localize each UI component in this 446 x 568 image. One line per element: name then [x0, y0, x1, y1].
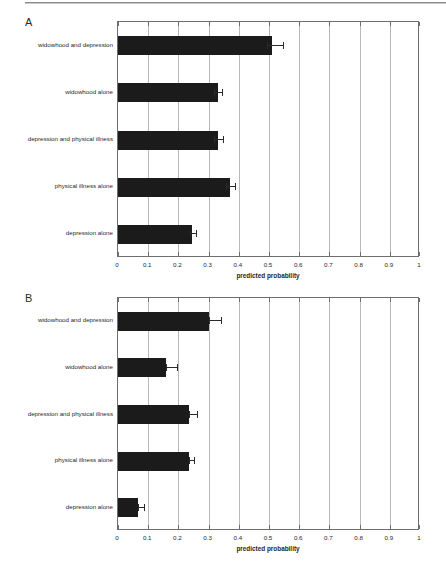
xtick-label: 0: [115, 261, 118, 268]
axis-tick: [269, 22, 270, 26]
error-bar: [214, 92, 222, 93]
category-label: widowhood and depression: [1, 317, 113, 323]
bar: [118, 405, 189, 424]
axis-tick: [360, 298, 361, 302]
axis-tick: [269, 525, 270, 529]
error-bar: [214, 139, 223, 140]
error-bar: [267, 45, 283, 46]
axis-tick: [148, 22, 149, 26]
axis-tick: [209, 525, 210, 529]
error-bar-cap: [283, 42, 284, 49]
axis-tick: [390, 22, 391, 26]
bar: [118, 498, 138, 517]
axis-tick: [419, 22, 420, 26]
bar: [118, 131, 218, 150]
xtick-label: 0.1: [143, 534, 152, 541]
xtick-label: 0.1: [143, 261, 152, 268]
xtick-label: 0.9: [384, 261, 393, 268]
panel-a: A widowhood and depressionwidowhood alon…: [0, 12, 446, 280]
axis-tick: [209, 252, 210, 256]
error-bar-cap: [144, 504, 145, 511]
xtick-label: 0.4: [233, 534, 242, 541]
axis-tick: [239, 525, 240, 529]
bar: [118, 225, 192, 244]
axis-tick: [178, 298, 179, 302]
xtick-label: 0: [115, 534, 118, 541]
error-bar-cap: [222, 89, 223, 96]
axis-tick: [118, 525, 119, 529]
axis-tick: [118, 298, 119, 302]
error-bar-cap: [226, 183, 227, 190]
bar: [118, 178, 230, 197]
panel-b: B widowhood and depressionwidowhood alon…: [0, 288, 446, 560]
xtick-label: 0.3: [203, 534, 212, 541]
axis-tick: [360, 252, 361, 256]
error-bar-cap: [197, 411, 198, 418]
axis-tick: [209, 298, 210, 302]
bar: [118, 358, 166, 377]
error-bar-cap: [223, 136, 224, 143]
xtick-label: 0.7: [324, 534, 333, 541]
axis-tick: [360, 22, 361, 26]
xtick-label: 0.3: [203, 261, 212, 268]
gridline: [360, 22, 361, 256]
gridline: [299, 298, 300, 529]
xtick-label: 0.2: [173, 261, 182, 268]
category-label: widowhood alone: [1, 89, 113, 95]
gridline: [329, 22, 330, 256]
bar: [118, 452, 189, 471]
gridline: [269, 298, 270, 529]
axis-tick: [269, 252, 270, 256]
axis-tick: [299, 252, 300, 256]
axis-tick: [299, 298, 300, 302]
panel-b-letter: B: [25, 292, 33, 304]
error-bar-cap: [189, 457, 190, 464]
axis-tick: [299, 22, 300, 26]
axis-tick: [148, 252, 149, 256]
xtick-label: 1: [417, 534, 420, 541]
error-bar-cap: [196, 230, 197, 237]
xtick-label: 0.7: [324, 261, 333, 268]
error-bar: [166, 367, 177, 368]
bar: [118, 83, 218, 102]
xtick-label: 0.6: [294, 534, 303, 541]
axis-tick: [178, 22, 179, 26]
error-bar: [226, 186, 235, 187]
axis-tick: [329, 298, 330, 302]
axis-tick: [148, 298, 149, 302]
gridline: [239, 298, 240, 529]
xtick-label: 1: [417, 261, 420, 268]
axis-tick: [178, 525, 179, 529]
axis-tick: [329, 252, 330, 256]
axis-tick: [148, 525, 149, 529]
gridline: [269, 22, 270, 256]
error-bar-cap: [190, 230, 191, 237]
axis-tick: [118, 252, 119, 256]
error-bar-cap: [177, 364, 178, 371]
xtick-label: 0.9: [384, 534, 393, 541]
error-bar-cap: [209, 317, 210, 324]
panel-a-axis-title: predicted probability: [117, 272, 419, 279]
category-label: depression and physical illness: [1, 136, 113, 142]
category-label: physical illness alone: [1, 183, 113, 189]
panel-b-plot-area: [117, 297, 419, 530]
header-rule: [25, 2, 446, 4]
error-bar-cap: [138, 504, 139, 511]
axis-tick: [118, 22, 119, 26]
error-bar-cap: [221, 317, 222, 324]
axis-tick: [269, 298, 270, 302]
xtick-label: 0.5: [264, 261, 273, 268]
panel-a-letter: A: [25, 16, 33, 28]
category-label: widowhood alone: [1, 364, 113, 370]
gridline: [329, 298, 330, 529]
category-label: physical illness alone: [1, 457, 113, 463]
axis-tick: [209, 22, 210, 26]
gridline: [390, 22, 391, 256]
axis-tick: [419, 298, 420, 302]
axis-tick: [390, 525, 391, 529]
xtick-label: 0.2: [173, 534, 182, 541]
axis-tick: [239, 298, 240, 302]
gridline: [209, 298, 210, 529]
axis-tick: [239, 22, 240, 26]
category-label: widowhood and depression: [1, 42, 113, 48]
